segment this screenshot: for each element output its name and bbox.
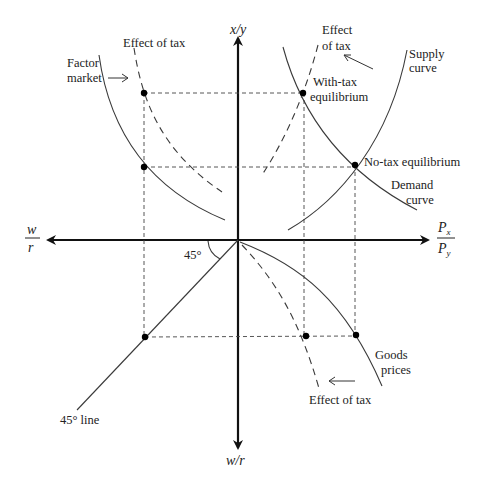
goods-prices-curve: [240, 242, 382, 386]
no-tax-equilibrium-label: No-tax equilibrium: [364, 155, 460, 169]
supply-curve-label-2: curve: [409, 61, 437, 75]
point-with-tax-equilibrium: [300, 90, 306, 96]
factor-market-curve: [99, 55, 225, 220]
goods-prices-label-1: Goods: [375, 348, 408, 362]
equilibrium-points: [141, 90, 359, 340]
demand-curve-label-2: curve: [406, 193, 434, 207]
supply-curve-label-1: Supply: [409, 47, 445, 61]
guide-lines: [144, 93, 356, 337]
point-factor-with-tax: [141, 90, 147, 96]
supply-effect-of-tax-curve: [262, 45, 318, 175]
axis-label-left: w r: [25, 222, 40, 255]
point-goods-no-tax: [353, 332, 359, 338]
arrow-up-left-icon: [344, 55, 373, 69]
goods-prices-label-2: prices: [381, 363, 411, 377]
factor-market-effect-of-tax-curve: [134, 48, 222, 192]
point-goods-with-tax: [303, 333, 309, 339]
with-tax-equilibrium-label-2: equilibrium: [310, 90, 369, 104]
effect-of-tax-label-bottom: Effect of tax: [309, 393, 372, 407]
goods-prices-effect-of-tax-curve: [242, 245, 320, 392]
factor-market-label-1: Factor: [67, 56, 100, 70]
45-degree-angle-arc: [208, 241, 220, 259]
point-no-tax-equilibrium: [352, 162, 358, 168]
factor-market-label-2: market: [67, 71, 102, 85]
axis-label-bottom: w/r: [226, 453, 245, 468]
svg-text:w: w: [27, 222, 37, 237]
effect-of-tax-label-top-right-1: Effect: [322, 23, 353, 37]
point-45-line: [142, 334, 148, 340]
arrow-left-icon: [329, 377, 355, 385]
45-degree-line: [77, 240, 238, 410]
svg-text:r: r: [28, 240, 34, 255]
arrow-right-icon: [108, 74, 128, 82]
angle-label: 45°: [184, 248, 202, 262]
45-degree-line-label: 45° line: [60, 413, 100, 427]
svg-text:Py: Py: [437, 241, 451, 258]
point-factor-no-tax: [141, 164, 147, 170]
effect-of-tax-label-top-left: Effect of tax: [123, 36, 186, 50]
four-quadrant-diagram: x/y w/r w r Px Py Factor market Effect o…: [0, 0, 477, 488]
demand-curve-label-1: Demand: [391, 178, 434, 192]
svg-text:Px: Px: [437, 220, 451, 237]
axis-label-top: x/y: [229, 22, 247, 37]
axis-label-right: Px Py: [437, 220, 455, 258]
with-tax-equilibrium-label-1: With-tax: [313, 75, 358, 89]
effect-of-tax-label-top-right-2: of tax: [322, 39, 352, 53]
